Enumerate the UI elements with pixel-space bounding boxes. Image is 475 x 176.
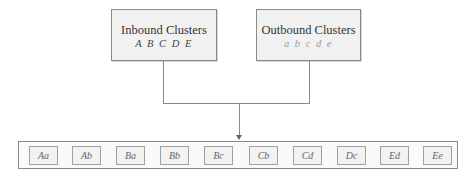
outbound-title: Outbound Clusters — [257, 23, 360, 37]
inbound-title: Inbound Clusters — [112, 23, 216, 37]
pair-box: Cd — [293, 146, 322, 165]
inbound-connector — [163, 61, 164, 104]
pair-box: Aa — [29, 146, 58, 165]
join-connector — [163, 103, 310, 104]
pair-box: Ed — [380, 146, 409, 165]
outbound-connector — [309, 61, 310, 104]
inbound-members: A B C D E — [112, 37, 216, 50]
pair-box: Dc — [337, 146, 366, 165]
inbound-clusters-box: Inbound Clusters A B C D E — [111, 9, 217, 61]
pair-box: Bc — [204, 146, 233, 165]
outbound-members: a b c d e — [257, 37, 360, 50]
arrow-down-icon — [236, 135, 242, 140]
pair-box: Cb — [249, 146, 278, 165]
pair-box: Bb — [160, 146, 189, 165]
pair-box: Ba — [116, 146, 145, 165]
outbound-clusters-box: Outbound Clusters a b c d e — [256, 9, 361, 61]
pair-box: Ee — [423, 146, 452, 165]
down-connector — [239, 103, 240, 136]
cluster-pairs-container: Aa Ab Ba Bb Bc Cb Cd Dc Ed Ee — [18, 141, 458, 169]
pair-box: Ab — [72, 146, 101, 165]
